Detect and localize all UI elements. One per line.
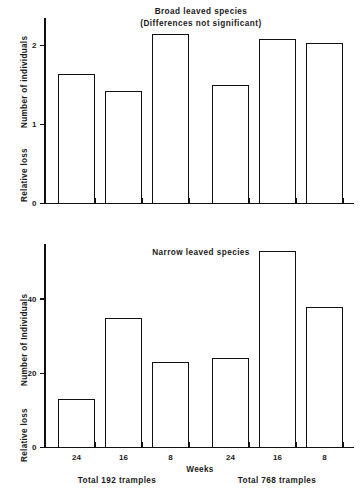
x-tick-label-4: 24	[226, 453, 235, 462]
y-tick-2-top: 2	[40, 45, 45, 46]
chart-title-line-1: Broad leaved species	[96, 6, 306, 18]
bar-bottom-5	[259, 251, 296, 448]
x-tick-label-6: 8	[322, 453, 326, 462]
x-axis-title: Weeks	[186, 465, 213, 474]
y-tick-label-0-bottom: 0	[32, 443, 36, 452]
group-caption-right: Total 768 tramples	[238, 476, 317, 485]
x-tick-bottom	[343, 442, 344, 448]
group-caption-left: Total 192 tramples	[78, 476, 157, 485]
plot-area-narrow-leaved: 0 20 40	[44, 244, 354, 448]
y-axis-label-number-of-individuals-top: Number of individuals	[20, 36, 29, 128]
x-tick-bottom	[296, 442, 297, 448]
x-tick-top	[189, 198, 190, 204]
x-tick-label-3: 8	[168, 453, 172, 462]
chart-panel-broad-leaved: Broad leaved species (Differences not si…	[0, 0, 362, 230]
bar-bottom-6	[306, 307, 343, 448]
x-tick-bottom	[142, 442, 143, 448]
y-axis-label-relative-loss-bottom: Relative loss	[20, 408, 29, 462]
bar-bottom-2	[105, 318, 142, 448]
bar-top-3	[152, 34, 189, 203]
y-tick-label-0-top: 0	[32, 199, 36, 208]
y-tick-40-bottom: 40	[40, 298, 45, 299]
bar-top-5	[259, 39, 296, 204]
x-tick-bottom	[95, 442, 96, 448]
bar-top-2	[105, 91, 142, 203]
bar-top-4	[212, 85, 249, 204]
y-tick-label-1-top: 1	[32, 120, 36, 129]
y-axis-label-relative-loss-top: Relative loss	[20, 148, 29, 202]
x-tick-top	[142, 198, 143, 204]
y-tick-label-20-bottom: 20	[28, 369, 37, 378]
x-tick-label-1: 24	[72, 453, 81, 462]
y-axis-line-bottom	[44, 244, 46, 448]
y-tick-label-40-bottom: 40	[28, 295, 37, 304]
y-axis-line-top	[44, 18, 46, 204]
bar-bottom-3	[152, 362, 189, 447]
x-tick-bottom	[189, 442, 190, 448]
x-tick-label-2: 16	[119, 453, 128, 462]
chart-panel-narrow-leaved: Narrow leaved species Number of Individu…	[0, 234, 362, 492]
x-tick-top	[249, 198, 250, 204]
y-tick-1-top: 1	[40, 124, 45, 125]
y-tick-0-bottom: 0	[40, 447, 45, 448]
bar-top-1	[58, 74, 95, 203]
bar-bottom-1	[58, 399, 95, 447]
x-tick-label-5: 16	[273, 453, 282, 462]
bar-bottom-4	[212, 358, 249, 447]
x-tick-bottom	[249, 442, 250, 448]
y-tick-20-bottom: 20	[40, 373, 45, 374]
x-tick-top	[95, 198, 96, 204]
x-tick-top	[296, 198, 297, 204]
y-tick-label-2-top: 2	[32, 41, 36, 50]
figure-root: Broad leaved species (Differences not si…	[0, 0, 362, 492]
x-tick-top	[343, 198, 344, 204]
plot-area-broad-leaved: 0 1 2	[44, 18, 354, 204]
y-tick-0-top: 0	[40, 203, 45, 204]
bar-top-6	[306, 43, 343, 204]
